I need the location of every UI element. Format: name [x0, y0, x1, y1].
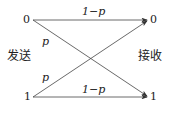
receiver-label: 接收 — [138, 50, 162, 63]
edge-label-0-1: p — [42, 36, 49, 48]
input-0-label: 0 — [23, 14, 30, 26]
output-1-label: 1 — [150, 91, 157, 103]
edge-label-1-1: 1−p — [82, 84, 105, 96]
edge-label-0-0: 1−p — [82, 6, 105, 18]
sender-label: 发送 — [7, 50, 31, 63]
edge-label-1-0: p — [42, 72, 49, 84]
output-0-label: 0 — [150, 14, 157, 26]
input-1-label: 1 — [24, 91, 31, 103]
